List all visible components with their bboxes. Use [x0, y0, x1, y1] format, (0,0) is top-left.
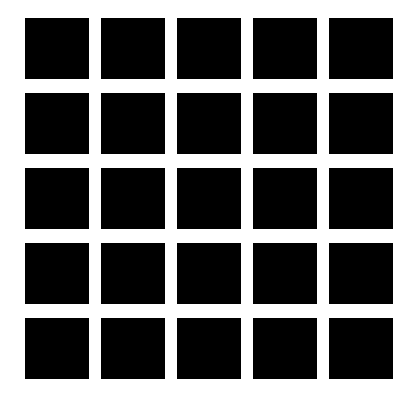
grid-square	[329, 243, 393, 304]
grid-square	[25, 18, 89, 79]
grid-square	[253, 243, 317, 304]
grid-square	[177, 18, 241, 79]
grid-square	[253, 318, 317, 379]
grid-square	[25, 168, 89, 229]
grid-square	[101, 18, 165, 79]
grid-square	[329, 318, 393, 379]
grid-square	[177, 168, 241, 229]
grid-square	[329, 18, 393, 79]
grid-square	[253, 18, 317, 79]
grid-square	[101, 318, 165, 379]
grid-square	[25, 243, 89, 304]
grid-square	[177, 243, 241, 304]
grid-square	[101, 243, 165, 304]
grid-square	[25, 318, 89, 379]
grid-square	[25, 93, 89, 154]
grid-square	[101, 168, 165, 229]
grid-square	[329, 168, 393, 229]
grid-square	[253, 168, 317, 229]
grid-square	[101, 93, 165, 154]
grid-square	[177, 318, 241, 379]
grid-square	[253, 93, 317, 154]
grid-square	[329, 93, 393, 154]
grid-square	[177, 93, 241, 154]
hermann-grid	[25, 18, 393, 379]
